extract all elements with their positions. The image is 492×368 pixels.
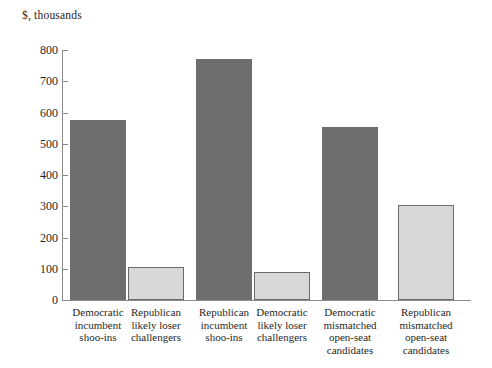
category-label: Democraticmismatchedopen-seatcandidates	[309, 306, 391, 356]
bar	[196, 59, 252, 300]
category-label: Republicanmismatchedopen-seatcandidates	[385, 306, 467, 356]
category-label-line: candidates	[309, 344, 391, 357]
category-label-line: open-seat	[385, 331, 467, 344]
category-label-line: mismatched	[309, 319, 391, 332]
category-label-line: open-seat	[309, 331, 391, 344]
bar	[398, 205, 454, 300]
bar	[254, 272, 310, 300]
category-label-line: Republican	[385, 306, 467, 319]
bar	[128, 267, 184, 300]
bar	[322, 127, 378, 300]
category-label-line: mismatched	[385, 319, 467, 332]
bar	[70, 120, 126, 300]
category-label-line: Democratic	[309, 306, 391, 319]
plot-area: 0100200300400500600700800 Democraticincu…	[0, 0, 492, 368]
category-label-line: candidates	[385, 344, 467, 357]
bar-chart: $, thousands 0100200300400500600700800 D…	[0, 0, 492, 368]
